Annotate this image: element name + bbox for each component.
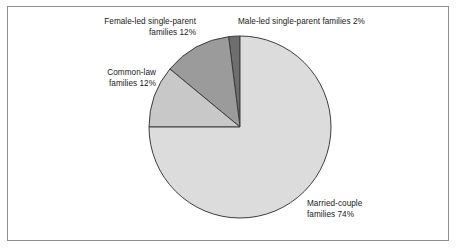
slice-label-married-couple: Married-couple families 74% [307,199,447,220]
slice-label-male-led-single-parent: Male-led single-parent families 2% [238,17,438,28]
pie-chart-figure: Female-led single-parent families 12% Ma… [0,0,458,252]
slice-label-female-led-single-parent: Female-led single-parent families 12% [44,17,196,38]
pie-slice-group [149,36,331,218]
slice-label-common-law: Common-law families 12% [40,68,156,89]
